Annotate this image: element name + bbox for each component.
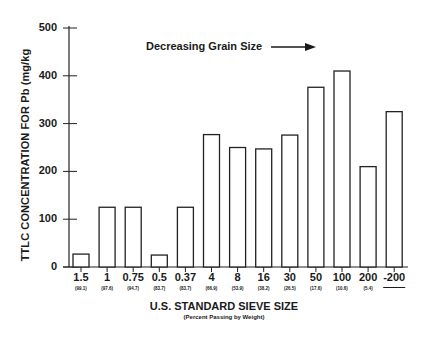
x-axis-subtitle: (Percent Passing by Weight) — [0, 314, 428, 320]
y-tick-label: 100 — [27, 212, 57, 224]
bar-50 — [308, 87, 324, 267]
y-tick-label: 400 — [27, 69, 57, 81]
bar-0.5 — [151, 255, 167, 267]
bar-0.75 — [125, 207, 141, 267]
annotation-decreasing-grain-size: Decreasing Grain Size — [146, 40, 317, 52]
y-tick-label: 200 — [27, 164, 57, 176]
bar-8 — [230, 148, 246, 268]
y-tick-label: 300 — [27, 117, 57, 129]
bar--200 — [386, 112, 402, 267]
right-arrow-icon — [271, 42, 317, 52]
x-tick-sublabel: (5.4) — [353, 286, 383, 291]
bar-1 — [99, 207, 115, 267]
bar-30 — [282, 135, 298, 267]
bar-16 — [256, 149, 272, 267]
bar-200 — [360, 167, 376, 267]
bar-0.37 — [177, 207, 193, 267]
x-axis-title: U.S. STANDARD SIEVE SIZE — [0, 300, 428, 312]
x-tick-label: -200 — [379, 271, 409, 283]
annotation-text: Decreasing Grain Size — [146, 40, 262, 52]
bar-chart: TTLC CONCENTRATION FOR Pb (mg/kg 0100200… — [0, 0, 428, 337]
y-tick-label: 500 — [27, 21, 57, 33]
bar-4 — [204, 135, 220, 267]
bar-100 — [334, 71, 350, 267]
bar-1.5 — [73, 254, 89, 267]
y-tick-label: 0 — [27, 260, 57, 272]
